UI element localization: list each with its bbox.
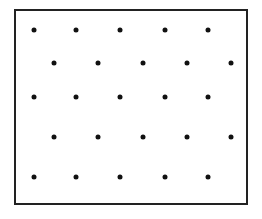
rectangular-border [14, 9, 248, 205]
figure-canvas: Staggered dot lattice inside rectangular… [0, 0, 262, 219]
